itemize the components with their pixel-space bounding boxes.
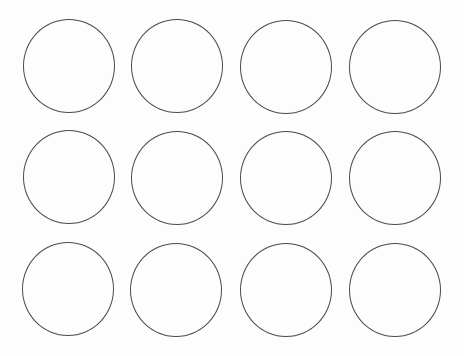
circle-r1-c1 [23,19,115,113]
circle-r3-c4 [349,243,441,337]
circle-r1-c2 [131,19,223,113]
circle-template-sheet [0,0,464,356]
circle-r1-c4 [349,20,441,114]
circle-r3-c2 [130,243,222,337]
circle-r2-c3 [240,131,332,225]
circle-r2-c1 [23,130,115,224]
circle-r2-c4 [349,131,441,225]
circle-r1-c3 [240,20,332,114]
circle-r3-c1 [22,242,114,336]
circle-r3-c3 [240,243,332,337]
circle-r2-c2 [131,131,223,225]
